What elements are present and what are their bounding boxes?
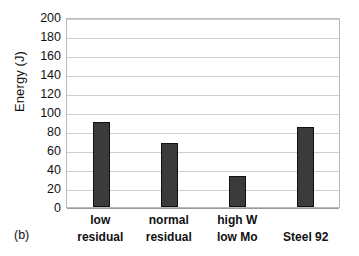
bar[interactable] (161, 143, 178, 207)
y-axis-tick-label: 40 (28, 164, 61, 177)
y-axis-tick-label: 140 (28, 69, 61, 82)
bars-layer (67, 19, 339, 207)
x-axis-label-line: Steel 92 (272, 229, 341, 246)
x-axis-category-label: normalresidual (135, 211, 204, 255)
x-axis-label-line: residual (135, 229, 204, 246)
x-axis-category-label: high Wlow Mo (203, 211, 272, 255)
y-axis-tick-label: 20 (28, 183, 61, 196)
y-axis-tick-label: 180 (28, 31, 61, 44)
x-axis-category-label: lowresidual (66, 211, 135, 255)
y-axis-tick-label: 200 (28, 12, 61, 25)
y-axis-tick-label: 100 (28, 107, 61, 120)
bar[interactable] (297, 127, 314, 207)
y-axis-tick-label: 60 (28, 145, 61, 158)
y-axis-tick-label: 0 (28, 202, 61, 215)
y-axis-tick-label: 80 (28, 126, 61, 139)
x-axis-label-line: normal (135, 212, 204, 229)
x-axis-label-line: low Mo (203, 229, 272, 246)
figure-panel: Energy (J) 200180160140120100806040200 l… (0, 0, 359, 256)
x-axis-label-line: residual (66, 229, 135, 246)
bar[interactable] (229, 176, 246, 207)
bar-slot (135, 19, 203, 207)
axis-baseline (67, 208, 339, 209)
bar-slot (67, 19, 135, 207)
x-axis-category-labels: lowresidualnormalresidualhigh Wlow MoSte… (66, 211, 340, 255)
y-axis-tick-label: 120 (28, 88, 61, 101)
y-axis-tick-label: 160 (28, 50, 61, 63)
x-axis-category-label: Steel 92 (272, 211, 341, 255)
plot-area (66, 18, 340, 208)
bar[interactable] (93, 122, 110, 208)
panel-caption: (b) (14, 228, 29, 242)
x-axis-label-line: high W (203, 212, 272, 229)
x-axis-label-line: low (66, 212, 135, 229)
y-axis-title: Energy (J) (12, 27, 27, 137)
bar-slot (203, 19, 271, 207)
y-axis-tick-labels: 200180160140120100806040200 (28, 18, 61, 208)
bar-slot (271, 19, 339, 207)
